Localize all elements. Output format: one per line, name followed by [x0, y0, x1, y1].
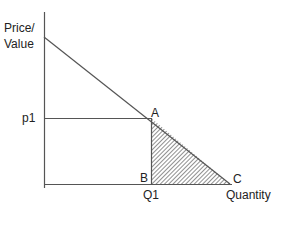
y-axis-label-line1: Price/ — [4, 21, 35, 35]
x-axis-label: Quantity — [226, 188, 271, 202]
y-axis-label-line2: Value — [4, 37, 34, 51]
point-b-label: B — [140, 171, 148, 185]
point-a-label: A — [151, 106, 159, 120]
quantity-label-q1: Q1 — [143, 188, 159, 202]
demand-line — [44, 37, 230, 184]
price-label-p1: p1 — [22, 111, 35, 125]
point-c-label: C — [233, 172, 242, 186]
